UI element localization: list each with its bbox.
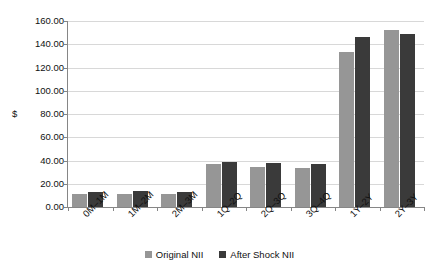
bar[interactable] bbox=[295, 168, 310, 207]
y-axis-tick bbox=[64, 137, 68, 138]
legend-item-after-shock-nii[interactable]: After Shock NII bbox=[219, 250, 294, 260]
legend-label: After Shock NII bbox=[230, 250, 294, 260]
y-axis-tick bbox=[64, 21, 68, 22]
y-axis-tick-label: 20.00 bbox=[18, 179, 64, 189]
bar-group bbox=[113, 21, 158, 207]
bar-group bbox=[246, 21, 291, 207]
x-axis-tick bbox=[113, 207, 114, 211]
y-axis-labels: 0.0020.0040.0060.0080.00100.00120.00140.… bbox=[12, 0, 64, 275]
y-axis-tick bbox=[64, 114, 68, 115]
x-axis-tick bbox=[157, 207, 158, 211]
bar[interactable] bbox=[400, 34, 415, 207]
x-axis-tick bbox=[68, 207, 69, 211]
bar[interactable] bbox=[206, 164, 221, 207]
legend-label: Original NII bbox=[156, 250, 204, 260]
bar-group bbox=[380, 21, 425, 207]
y-axis-tick-label: 40.00 bbox=[18, 156, 64, 166]
y-axis-tick bbox=[64, 184, 68, 185]
x-axis-tick bbox=[291, 207, 292, 211]
bar-group bbox=[157, 21, 202, 207]
y-axis-title: $ bbox=[12, 109, 26, 119]
bar[interactable] bbox=[384, 30, 399, 207]
bar-group bbox=[202, 21, 247, 207]
y-axis-tick bbox=[64, 91, 68, 92]
legend-swatch-icon bbox=[219, 251, 226, 258]
legend-item-original-nii[interactable]: Original NII bbox=[145, 250, 204, 260]
x-axis-tick bbox=[380, 207, 381, 211]
y-axis-tick bbox=[64, 161, 68, 162]
y-axis-tick-label: 140.00 bbox=[18, 39, 64, 49]
y-axis-tick-label: 60.00 bbox=[18, 132, 64, 142]
plot-area bbox=[68, 21, 424, 207]
bar-group bbox=[68, 21, 113, 207]
bar[interactable] bbox=[339, 52, 354, 207]
y-axis-tick-label: 100.00 bbox=[18, 86, 64, 96]
x-axis-tick bbox=[202, 207, 203, 211]
y-axis-tick bbox=[64, 44, 68, 45]
y-axis-tick-label: 0.00 bbox=[18, 202, 64, 212]
x-axis-tick bbox=[335, 207, 336, 211]
legend: Original NII After Shock NII bbox=[0, 250, 439, 260]
x-axis-tick bbox=[424, 207, 425, 211]
bar-group bbox=[335, 21, 380, 207]
y-axis-tick bbox=[64, 68, 68, 69]
bar[interactable] bbox=[355, 37, 370, 207]
legend-swatch-icon bbox=[145, 251, 152, 258]
y-axis-tick-label: 160.00 bbox=[18, 16, 64, 26]
bar[interactable] bbox=[117, 194, 132, 207]
bar-chart: 0.0020.0040.0060.0080.00100.00120.00140.… bbox=[0, 0, 439, 275]
bar[interactable] bbox=[250, 167, 265, 207]
y-axis-tick-label: 120.00 bbox=[18, 63, 64, 73]
x-axis-tick bbox=[246, 207, 247, 211]
bar-group bbox=[291, 21, 336, 207]
